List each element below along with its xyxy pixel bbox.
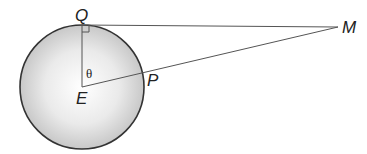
label-E: E [76, 89, 88, 108]
label-Q: Q [75, 6, 88, 25]
geometry-diagram: Q M P E θ [0, 0, 367, 154]
label-theta: θ [86, 66, 92, 81]
label-P: P [147, 71, 159, 90]
tangent-line-QM [82, 25, 338, 27]
label-M: M [342, 18, 357, 37]
